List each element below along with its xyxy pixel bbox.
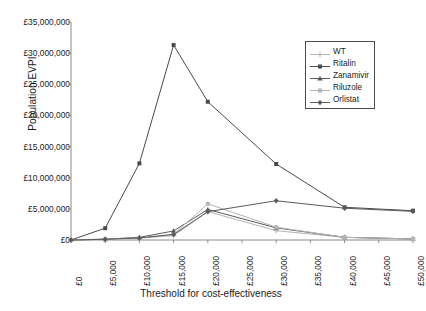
legend-marker-diamond-icon xyxy=(309,94,331,105)
x-axis-title: Threshold for cost-effectiveness xyxy=(0,288,422,299)
x-tick-label: £30,000 xyxy=(280,256,289,286)
data-point-marker xyxy=(317,51,323,57)
x-tick-label: £10,000 xyxy=(143,256,152,286)
legend-item-wt: WT xyxy=(309,45,369,57)
x-tick-label: £20,000 xyxy=(212,256,221,286)
chart-legend: WTRitalinZanamivirRiluzoleOrlistat xyxy=(305,41,375,109)
x-tick-label: £5,000 xyxy=(109,260,118,286)
x-tick-label: £0 xyxy=(75,277,84,286)
legend-item-zanamivir: Zanamivir xyxy=(309,69,369,81)
x-tick-label: £35,000 xyxy=(314,256,323,286)
legend-label: WT xyxy=(331,47,346,56)
x-tick-label: £25,000 xyxy=(246,256,255,286)
legend-marker-square-light-icon xyxy=(309,82,331,93)
x-tick-label: £40,000 xyxy=(349,256,358,286)
data-point-marker xyxy=(318,99,323,105)
legend-marker-triangle-icon xyxy=(309,70,331,81)
data-point-marker xyxy=(318,64,322,68)
legend-item-ritalin: Ritalin xyxy=(309,57,369,69)
legend-label: Orlistat xyxy=(331,95,359,104)
legend-item-riluzole: Riluzole xyxy=(309,81,369,93)
x-tick-label: £45,000 xyxy=(383,256,392,286)
caption-ghost-line xyxy=(0,302,422,311)
legend-marker-plus-icon xyxy=(309,46,331,57)
legend-label: Zanamivir xyxy=(331,71,369,80)
legend-label: Ritalin xyxy=(331,59,356,68)
data-point-marker xyxy=(318,88,322,92)
legend-marker-square-icon xyxy=(309,58,331,69)
legend-label: Riluzole xyxy=(331,83,362,92)
x-tick-label: £50,000 xyxy=(417,256,426,286)
legend-item-orlistat: Orlistat xyxy=(309,93,369,105)
x-tick-label: £15,000 xyxy=(178,256,187,286)
